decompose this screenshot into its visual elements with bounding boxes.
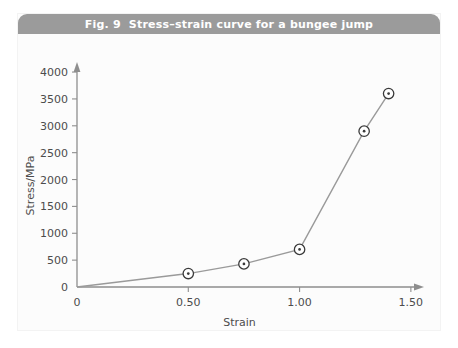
y-tick-label: 0 xyxy=(61,281,68,294)
y-tick-label: 2500 xyxy=(40,147,68,160)
marker-center-dot xyxy=(298,248,301,251)
marker-center-dot xyxy=(363,130,366,133)
data-point-marker[interactable] xyxy=(239,259,249,269)
x-tick-label: 1.50 xyxy=(399,296,424,309)
y-axis-arrow-icon xyxy=(74,62,81,72)
y-tick-label: 4000 xyxy=(40,66,68,79)
data-point-marker[interactable] xyxy=(359,126,369,136)
x-tick-label: 0.50 xyxy=(176,296,201,309)
figure-title: Fig. 9 Stress–strain curve for a bungee … xyxy=(85,18,373,31)
figure-title-bar: Fig. 9 Stress–strain curve for a bungee … xyxy=(18,14,440,34)
data-point-marker[interactable] xyxy=(183,268,193,278)
data-point-marker[interactable] xyxy=(294,244,304,254)
y-tick-label: 1500 xyxy=(40,200,68,213)
stress-strain-chart: 0500100015002000250030003500400000.501.0… xyxy=(18,34,440,330)
data-series-line xyxy=(77,94,389,287)
marker-center-dot xyxy=(387,92,390,95)
y-tick-label: 2000 xyxy=(40,174,68,187)
x-tick-label: 0 xyxy=(74,296,81,309)
y-axis-title: Stress/MPa xyxy=(24,156,37,216)
x-axis-arrow-icon xyxy=(414,284,424,291)
y-tick-label: 1000 xyxy=(40,227,68,240)
y-tick-label: 3000 xyxy=(40,120,68,133)
y-tick-label: 500 xyxy=(47,254,68,267)
marker-center-dot xyxy=(187,272,190,275)
x-tick-label: 1.00 xyxy=(287,296,312,309)
y-tick-label: 3500 xyxy=(40,93,68,106)
data-point-marker[interactable] xyxy=(383,88,393,98)
marker-center-dot xyxy=(243,263,246,266)
x-axis-title: Strain xyxy=(223,316,256,329)
plot-area: 0500100015002000250030003500400000.501.0… xyxy=(18,34,440,330)
figure-container: Fig. 9 Stress–strain curve for a bungee … xyxy=(0,0,458,348)
